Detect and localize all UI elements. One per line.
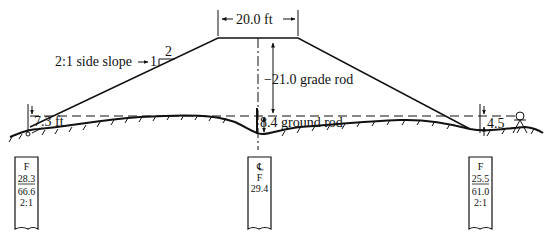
cross-section-diagram: 20.0 ft 2:1 side slope 1 2 −21.0 grade r… xyxy=(0,0,552,242)
level-instrument-icon xyxy=(513,112,527,133)
stake-text: 2:1 xyxy=(20,197,33,208)
embankment-outline xyxy=(30,38,470,129)
left-stake-point xyxy=(26,132,30,136)
grade-rod-label: −21.0 grade rod xyxy=(264,72,353,87)
stake-text: F xyxy=(257,172,263,183)
left-stake: F 28.3 66.6 2:1 xyxy=(15,157,38,229)
ground-rod-label: 8.4 ground rod xyxy=(260,115,343,130)
top-width-label: 20.0 ft xyxy=(236,12,273,27)
stake-text: 66.6 xyxy=(18,186,36,197)
center-stake: ℄ F 29.4 xyxy=(248,157,271,229)
centerline-icon: ℄ xyxy=(256,161,264,172)
stake-text: F xyxy=(24,161,30,172)
stake-text: F xyxy=(478,161,484,172)
stake-text: 25.5 xyxy=(472,173,490,184)
stake-text: 29.4 xyxy=(251,183,269,194)
left-hi-label: 7.3 ft xyxy=(34,114,64,129)
side-slope-run: 2 xyxy=(165,44,172,59)
stake-text: 28.3 xyxy=(18,173,36,184)
side-slope-rise: 1 xyxy=(150,54,157,69)
stake-text: 2:1 xyxy=(474,197,487,208)
right-hi-label: 4.5 xyxy=(487,116,505,131)
right-stake: F 25.5 61.0 2:1 xyxy=(469,157,492,229)
stake-text: 61.0 xyxy=(472,186,490,197)
side-slope-label: 2:1 side slope xyxy=(55,54,132,69)
